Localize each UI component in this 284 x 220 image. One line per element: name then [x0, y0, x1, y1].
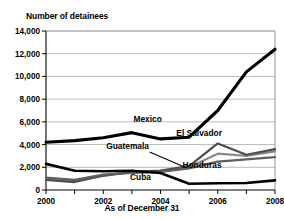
series-label-cuba: Cuba: [130, 172, 151, 182]
series-label-guatemala: Guatemala: [106, 141, 149, 151]
y-tick-label: 0: [35, 186, 40, 195]
series-label-el-salvador: El Salvador: [176, 128, 222, 138]
series-line-el-salvador: [46, 143, 275, 182]
detainees-line-chart: Number of detainees 02,0004,0006,0008,00…: [0, 0, 284, 220]
series-label-mexico: Mexico: [133, 114, 161, 124]
plot-frame: [46, 31, 275, 190]
series-label-honduras: Honduras: [182, 160, 221, 170]
chart-plot-area: 02,0004,0006,0008,00010,00012,00014,000 …: [0, 0, 284, 220]
y-tick-label: 10,000: [15, 72, 40, 81]
leader-line-guatemala: [150, 152, 187, 168]
series-line-guatemala: [46, 151, 275, 181]
y-tick-label: 12,000: [15, 50, 40, 59]
y-axis-ticks: 02,0004,0006,0008,00010,00012,00014,000: [15, 27, 46, 195]
y-tick-label: 6,000: [20, 118, 41, 127]
series-line-mexico: [46, 49, 275, 142]
y-tick-label: 2,000: [20, 163, 41, 172]
y-tick-label: 14,000: [15, 27, 40, 36]
gridlines: [46, 31, 275, 167]
y-tick-label: 8,000: [20, 95, 41, 104]
x-axis-title: As of December 31: [0, 203, 284, 213]
series-line-honduras: [46, 157, 275, 180]
y-tick-label: 4,000: [20, 141, 41, 150]
